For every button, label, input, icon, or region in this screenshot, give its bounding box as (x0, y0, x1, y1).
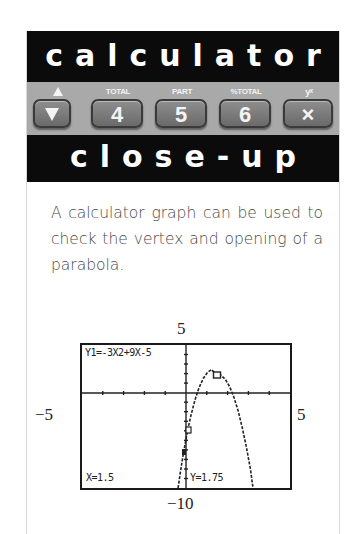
title-close-up: close-up (27, 135, 339, 182)
cursor-y-readout: Y=1.75 (190, 472, 223, 483)
xmin-label: −5 (35, 405, 53, 425)
key-arrow-button[interactable] (33, 99, 71, 128)
parabola-plot (82, 345, 290, 488)
description-text: A calculator graph can be used to check … (51, 200, 323, 278)
up-arrow-icon (53, 87, 63, 96)
calculator-keypad: TOTAL 4 PART 5 %TOTAL 6 yˣ × (27, 82, 339, 135)
key-label-part: PART (157, 87, 207, 96)
key-label-percent-total: %TOTAL (220, 87, 272, 96)
title-calculator: calculator (27, 31, 339, 82)
graph-screen: Y1=-3X2+9X-5 X=1.5 Y=1.75 (80, 343, 292, 490)
ymax-label: 5 (177, 319, 186, 339)
key-label-total: TOTAL (93, 87, 143, 96)
cursor-x-readout: X=1.5 (86, 472, 114, 483)
xmax-label: 5 (297, 405, 306, 425)
ymin-label: −10 (167, 494, 194, 514)
key-label-power: yˣ (289, 87, 329, 97)
calculator-closeup-card: calculator TOTAL 4 PART 5 %TOTAL 6 yˣ × … (26, 31, 340, 534)
key-6-button[interactable]: 6 (219, 99, 271, 128)
trace-cursor-icon (214, 372, 221, 378)
down-arrow-icon (45, 108, 59, 121)
key-multiply-button[interactable]: × (283, 99, 333, 128)
key-4-button[interactable]: 4 (91, 99, 143, 128)
key-5-button[interactable]: 5 (155, 99, 207, 128)
equation-readout: Y1=-3X2+9X-5 (85, 347, 151, 358)
